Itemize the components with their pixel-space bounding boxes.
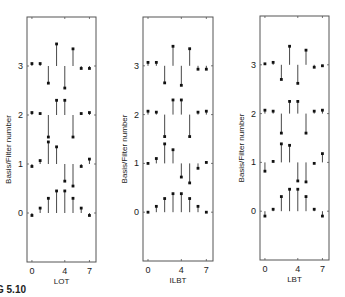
- basis-3-stems: [31, 43, 91, 90]
- stem-marker: [272, 160, 275, 163]
- stem-marker: [188, 182, 191, 185]
- stem-marker: [39, 159, 42, 162]
- stem-marker: [188, 135, 191, 138]
- stem-marker: [288, 100, 291, 103]
- stem-marker: [313, 110, 316, 113]
- y-tick-label: 2: [251, 109, 256, 119]
- stem-marker: [296, 188, 299, 191]
- stem-marker: [321, 215, 324, 218]
- stem-marker: [31, 62, 34, 65]
- stem-marker: [155, 61, 158, 64]
- x-tick-label: 4: [179, 265, 184, 275]
- basis-2-stems: [147, 99, 208, 138]
- stem-marker: [163, 197, 166, 200]
- x-tick-label: 0: [262, 264, 267, 274]
- stem-marker: [188, 47, 191, 50]
- stem-marker: [31, 165, 34, 168]
- stem-marker: [63, 190, 66, 193]
- figure-canvas: 0470123LOTBasis/Filter number0470123ILBT…: [0, 0, 345, 297]
- axes-frame: [143, 17, 213, 261]
- figure-caption: G 5.10: [0, 284, 26, 295]
- stem-marker: [197, 111, 200, 114]
- stem-marker: [205, 68, 208, 71]
- stem-marker: [321, 64, 324, 67]
- stem-marker: [72, 185, 75, 188]
- y-tick-label: 2: [134, 110, 139, 120]
- y-tick-label: 1: [18, 159, 23, 169]
- stem-marker: [180, 84, 183, 87]
- stem-marker: [55, 43, 58, 46]
- stem-marker: [264, 170, 267, 173]
- stem-marker: [72, 197, 75, 200]
- stem-marker: [321, 109, 324, 112]
- stem-marker: [272, 61, 275, 64]
- stem-plot-lbt: 0470123LBTBasis/Filter number: [237, 16, 329, 284]
- stem-marker: [72, 47, 75, 50]
- x-tick-label: 0: [145, 265, 150, 275]
- stem-marker: [172, 99, 175, 102]
- stem-marker: [296, 100, 299, 103]
- stem-marker: [205, 211, 208, 214]
- stem-marker: [63, 99, 66, 102]
- stem-marker: [88, 111, 91, 114]
- y-tick-label: 3: [134, 61, 139, 71]
- stem-marker: [172, 148, 175, 151]
- basis-2-stems: [31, 99, 91, 139]
- x-tick-label: 4: [295, 264, 300, 274]
- y-axis-label: Basis/Filter number: [4, 115, 13, 184]
- stem-marker: [163, 142, 166, 145]
- stem-marker: [39, 62, 42, 65]
- stem-marker: [163, 81, 166, 84]
- stem-marker: [88, 67, 91, 70]
- stem-marker: [147, 61, 150, 64]
- stem-marker: [172, 45, 175, 48]
- axes-frame: [27, 17, 96, 262]
- stem-marker: [80, 67, 83, 70]
- stem-marker: [55, 99, 58, 102]
- stem-marker: [72, 136, 75, 139]
- stem-marker: [47, 197, 50, 200]
- stem-marker: [88, 214, 91, 217]
- basis-1-stems: [264, 142, 324, 183]
- y-tick-label: 3: [18, 61, 23, 71]
- stem-marker: [172, 192, 175, 195]
- stem-marker: [47, 136, 50, 139]
- stem-marker: [205, 161, 208, 164]
- basis-0-stems: [31, 190, 91, 217]
- stem-marker: [296, 82, 299, 85]
- stem-marker: [288, 144, 291, 147]
- basis-0-stems: [264, 188, 324, 218]
- stem-marker: [47, 82, 50, 85]
- stem-marker: [313, 208, 316, 211]
- stem-marker: [147, 162, 150, 165]
- stem-marker: [197, 167, 200, 170]
- stem-marker: [272, 208, 275, 211]
- y-tick-label: 0: [18, 208, 23, 218]
- y-tick-label: 3: [251, 60, 256, 70]
- stem-marker: [205, 110, 208, 113]
- stem-marker: [305, 195, 308, 198]
- x-axis-label: ILBT: [170, 276, 187, 285]
- stem-marker: [305, 181, 308, 184]
- x-tick-label: 7: [87, 266, 92, 276]
- y-axis-label: Basis/Filter number: [237, 113, 246, 182]
- x-tick-label: 4: [62, 266, 67, 276]
- stem-marker: [155, 111, 158, 114]
- stem-marker: [39, 112, 42, 115]
- stem-marker: [313, 66, 316, 69]
- stem-marker: [188, 197, 191, 200]
- stem-marker: [63, 87, 66, 90]
- stem-marker: [272, 110, 275, 113]
- y-tick-label: 0: [251, 206, 256, 216]
- stem-marker: [180, 192, 183, 195]
- y-tick-label: 1: [134, 158, 139, 168]
- basis-0-stems: [147, 192, 208, 213]
- stem-marker: [47, 141, 50, 144]
- stem-plot-ilbt: 0470123ILBTBasis/Filter number: [120, 17, 213, 285]
- x-axis-label: LOT: [54, 277, 70, 286]
- stem-marker: [264, 62, 267, 65]
- stem-marker: [80, 207, 83, 210]
- stem-marker: [264, 215, 267, 218]
- stem-marker: [305, 49, 308, 52]
- stem-marker: [88, 158, 91, 161]
